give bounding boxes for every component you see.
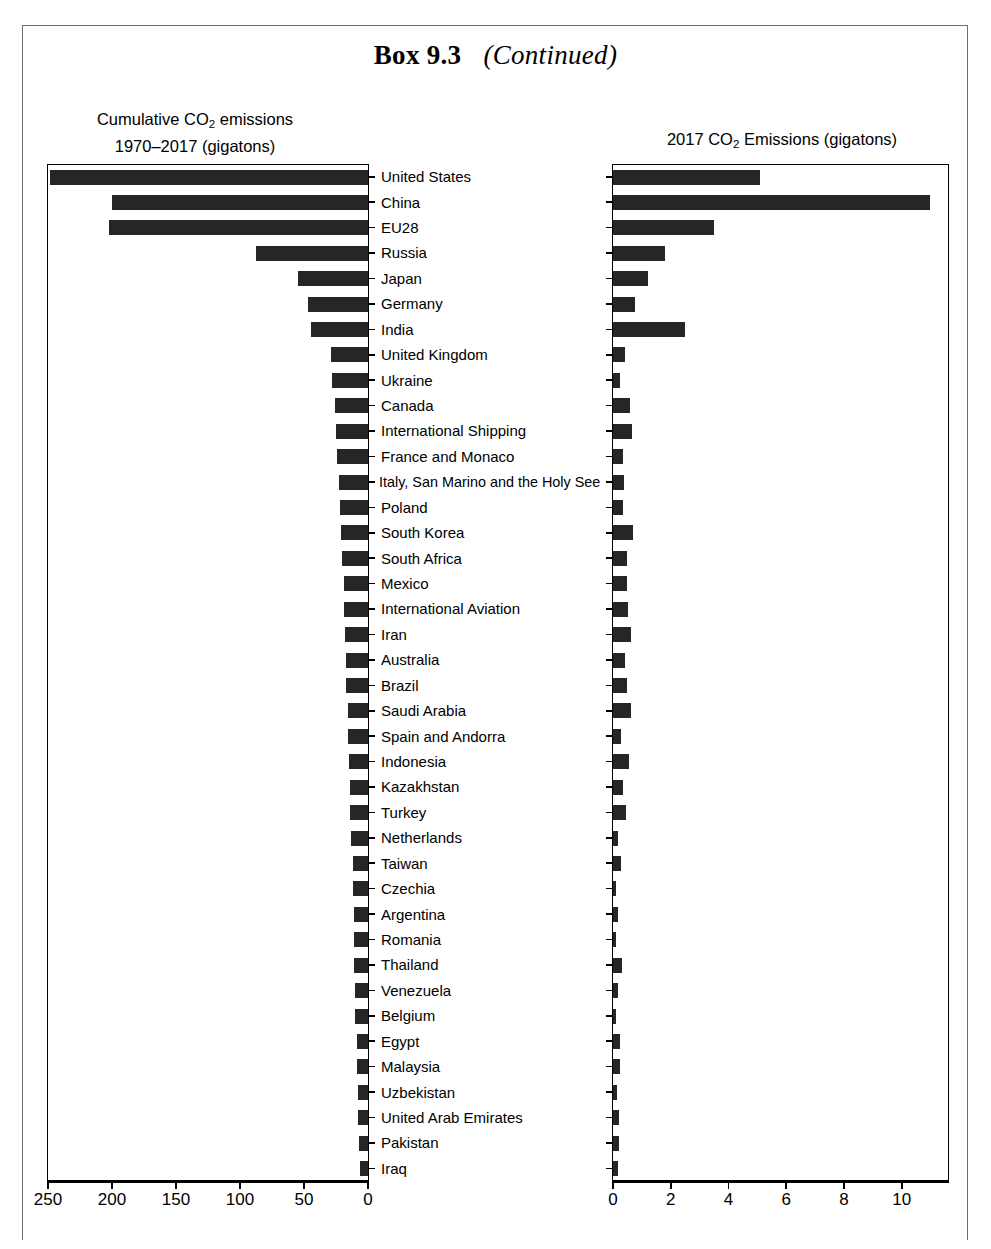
bar-row <box>48 292 368 317</box>
category-label: China <box>369 195 420 210</box>
category-label: Argentina <box>369 907 445 922</box>
bar <box>341 525 368 540</box>
bar <box>256 246 368 261</box>
category-label-row: South Korea <box>369 520 612 545</box>
bar-row <box>613 241 948 266</box>
category-label: Venezuela <box>369 983 451 998</box>
axis-tick <box>239 1181 241 1189</box>
category-label: United States <box>369 169 471 184</box>
category-label: Mexico <box>369 576 429 591</box>
bar <box>613 1009 616 1024</box>
category-label-row: South Africa <box>369 545 612 570</box>
bar-row <box>48 216 368 241</box>
bar <box>613 500 623 515</box>
category-label: International Aviation <box>369 601 520 616</box>
bar-row <box>613 419 948 444</box>
bar <box>353 881 368 896</box>
category-label: Pakistan <box>369 1135 439 1150</box>
bar-row <box>613 1029 948 1054</box>
category-label: International Shipping <box>369 423 526 438</box>
category-label: Brazil <box>369 678 419 693</box>
bar-row <box>613 674 948 699</box>
bar-row <box>613 394 948 419</box>
axis-tick-label: 4 <box>724 1190 733 1210</box>
bar-row <box>48 318 368 343</box>
bar-row <box>613 699 948 724</box>
bar-row <box>48 1004 368 1029</box>
bar-row <box>48 851 368 876</box>
bar <box>359 1136 368 1151</box>
bar-row <box>48 419 368 444</box>
category-label-row: Venezuela <box>369 978 612 1003</box>
axis-tick-label: 6 <box>782 1190 791 1210</box>
bar-row <box>48 953 368 978</box>
bar <box>335 398 368 413</box>
category-label-row: China <box>369 189 612 214</box>
bar-row <box>613 521 948 546</box>
axis-tick-label: 0 <box>608 1190 617 1210</box>
bar <box>357 1059 368 1074</box>
bar-row <box>48 496 368 521</box>
axis-tick-label: 150 <box>162 1190 190 1210</box>
category-label: Romania <box>369 932 441 947</box>
bar <box>354 907 368 922</box>
left-chart-title-line1: Cumulative CO2 emissions <box>50 108 340 135</box>
axis-tick <box>47 1181 49 1189</box>
bar <box>353 856 368 871</box>
left-x-axis: 250200150100500 <box>47 1181 369 1211</box>
left-chart-title-line2: 1970–2017 (gigatons) <box>50 135 340 157</box>
bar <box>354 958 368 973</box>
category-label: Thailand <box>369 957 439 972</box>
bar <box>613 678 627 693</box>
bar <box>613 602 628 617</box>
category-label: Russia <box>369 245 427 260</box>
category-label-row: Taiwan <box>369 850 612 875</box>
axis-line <box>47 1181 369 1183</box>
axis-tick <box>785 1181 787 1189</box>
bar <box>346 678 368 693</box>
bar <box>344 576 368 591</box>
category-label: Canada <box>369 398 434 413</box>
bar-row <box>613 216 948 241</box>
bar <box>613 653 625 668</box>
category-label: France and Monaco <box>369 449 514 464</box>
category-label: Egypt <box>369 1034 419 1049</box>
bar <box>342 551 368 566</box>
bar-row <box>48 877 368 902</box>
category-label-row: Thailand <box>369 952 612 977</box>
category-label-column: United StatesChinaEU28RussiaJapanGermany… <box>369 164 612 1181</box>
bar <box>298 271 368 286</box>
axis-tick <box>111 1181 113 1189</box>
bar-row <box>48 623 368 648</box>
right-chart-title-line1: 2017 CO2 Emissions (gigatons) <box>612 128 952 155</box>
category-label: Iran <box>369 627 407 642</box>
bar-row <box>613 572 948 597</box>
category-label: Iraq <box>369 1161 407 1176</box>
category-label-row: Canada <box>369 393 612 418</box>
bar-row <box>48 597 368 622</box>
subscript-2: 2 <box>733 138 739 150</box>
bar-row <box>48 368 368 393</box>
bar <box>613 220 714 235</box>
axis-tick <box>901 1181 903 1189</box>
bar-row <box>613 368 948 393</box>
bar <box>109 220 368 235</box>
category-label-row: Malaysia <box>369 1054 612 1079</box>
category-label-row: Spain and Andorra <box>369 723 612 748</box>
category-label-row: EU28 <box>369 215 612 240</box>
category-label: Turkey <box>369 805 426 820</box>
bar <box>345 627 368 642</box>
bar-row <box>48 546 368 571</box>
bar <box>613 1136 619 1151</box>
bar-row <box>613 165 948 190</box>
bar-row <box>613 190 948 215</box>
bar <box>340 500 368 515</box>
bar-row <box>48 267 368 292</box>
bar-row <box>613 470 948 495</box>
bar <box>358 1085 368 1100</box>
bar <box>613 1059 620 1074</box>
axis-tick-label: 0 <box>363 1190 372 1210</box>
category-label: Ukraine <box>369 373 433 388</box>
bar <box>332 373 368 388</box>
bar-row <box>613 318 948 343</box>
